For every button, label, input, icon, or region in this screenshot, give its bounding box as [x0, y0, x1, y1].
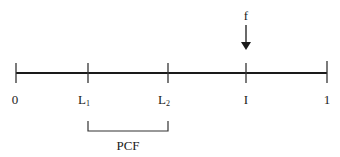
number-line-diagram: 0 L1 L2 I 1 PCF f: [0, 0, 340, 157]
label-1: 1: [324, 92, 331, 107]
label-0: 0: [12, 92, 19, 107]
label-l1: L1: [78, 92, 90, 108]
pcf-label: PCF: [116, 138, 139, 153]
label-i: I: [244, 92, 248, 107]
arrow-down-icon: [241, 42, 251, 50]
pcf-bracket: [88, 121, 168, 131]
label-l2: L2: [158, 92, 170, 108]
arrow-label-f: f: [244, 8, 249, 23]
